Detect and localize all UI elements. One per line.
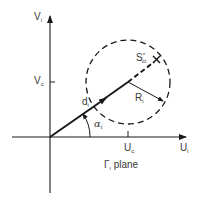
u-center-subscript: c [131, 148, 134, 154]
s-point-label: S*ci [136, 52, 146, 64]
v-center-letter: V [34, 75, 41, 86]
v-center-subscript: c [41, 81, 44, 87]
d-vector-tail [104, 82, 128, 99]
plane-caption: Γi plane [104, 160, 138, 171]
v-center-label: Vc [34, 76, 44, 87]
u-center-label: Uc [124, 143, 134, 154]
angle-label: αi [94, 119, 103, 130]
u-axis-subscript: i [187, 148, 188, 154]
radius-arrow [128, 82, 163, 101]
x-marker-icon [153, 56, 160, 63]
u-axis-label: Ui [180, 143, 189, 154]
radius-label: Ri [135, 93, 144, 104]
alpha-subscript: i [101, 123, 103, 130]
angle-arc [83, 114, 90, 137]
dashed-extension [128, 62, 154, 82]
v-axis-letter: V [34, 11, 41, 22]
alpha-letter: α [94, 118, 101, 129]
v-axis-label: Vi [34, 12, 42, 23]
s-subscript: ci [142, 58, 146, 64]
r-subscript: i [142, 98, 143, 104]
d-subscript: i [88, 102, 89, 108]
d-vector-label: di [82, 97, 89, 108]
gamma-subscript: i [110, 165, 111, 171]
caption-text: plane [114, 159, 138, 170]
v-axis-subscript: i [41, 17, 42, 23]
diagram-canvas [0, 0, 199, 208]
